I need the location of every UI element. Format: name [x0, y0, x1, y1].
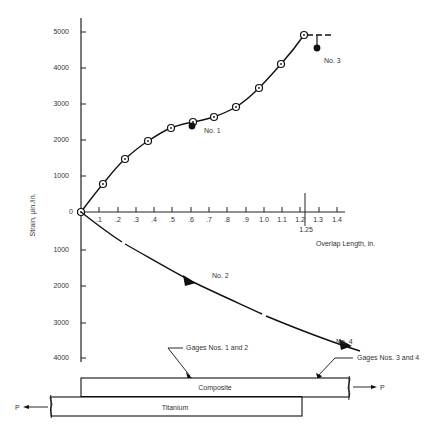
y-tick-label: 1000	[53, 246, 69, 253]
gages12-label: Gages Nos. 1 and 2	[186, 344, 248, 352]
load-right-arrow-icon	[371, 385, 377, 389]
gages34-label: Gages Nos. 3 and 4	[357, 354, 419, 362]
gage2-arrow-icon	[183, 275, 196, 286]
composite-label: Composite	[198, 384, 232, 392]
gage2-label: No. 2	[212, 272, 229, 279]
x-tick-label: .5	[169, 216, 175, 223]
y-axis-label: Strain, μin./in.	[29, 193, 37, 236]
x-tick-label: .2	[115, 216, 121, 223]
gages12-leader	[168, 348, 190, 376]
gage3-label: No. 3	[324, 57, 341, 64]
y-tick-labels: 5000 4000 3000 2000 1000 0 1000 2000 300…	[53, 28, 73, 361]
gage4-label: No. 4	[336, 338, 353, 345]
gage1-label: No. 1	[204, 127, 221, 134]
x-tick-label: 1.3	[313, 216, 323, 223]
y-tick-label: 3000	[53, 319, 69, 326]
y-tick-label: 1000	[53, 172, 69, 179]
y-tick-label: 0	[69, 208, 73, 215]
y-tick-label: 4000	[53, 354, 69, 361]
gage3-point	[314, 45, 321, 52]
gages34-leader	[318, 358, 353, 376]
y-tick-label: 5000	[53, 28, 69, 35]
x-tick-label: 1.1	[277, 216, 287, 223]
y-ticks	[81, 32, 86, 358]
y-tick-label: 2000	[53, 282, 69, 289]
load-right-label: P	[380, 384, 385, 391]
x-tick-label: 1.0	[259, 216, 269, 223]
x-tick-label: .8	[224, 216, 230, 223]
load-left-arrow-icon	[23, 405, 29, 409]
y-tick-label: 4000	[53, 64, 69, 71]
x-axis-label: Overlap Length, in.	[316, 240, 375, 248]
x-tick-label: .7	[206, 216, 212, 223]
y-tick-label: 3000	[53, 100, 69, 107]
x-ticks	[99, 207, 337, 212]
load-left-label: P	[15, 404, 20, 411]
x-tick-label: .1	[96, 216, 102, 223]
titanium-label: Titanium	[162, 404, 189, 411]
x-tick-label: 1.2	[295, 216, 305, 223]
gage1-point	[189, 123, 196, 130]
overlap-marker-label: 1.25	[299, 226, 313, 233]
x-tick-label: .4	[151, 216, 157, 223]
x-tick-label: .3	[133, 216, 139, 223]
y-tick-label: 2000	[53, 136, 69, 143]
strain-chart: 5000 4000 3000 2000 1000 0 1000 2000 300…	[0, 0, 436, 437]
lower-strain-curve	[125, 244, 262, 314]
x-tick-label: .6	[188, 216, 194, 223]
x-tick-label: 1.4	[332, 216, 342, 223]
x-tick-label: .9	[243, 216, 249, 223]
